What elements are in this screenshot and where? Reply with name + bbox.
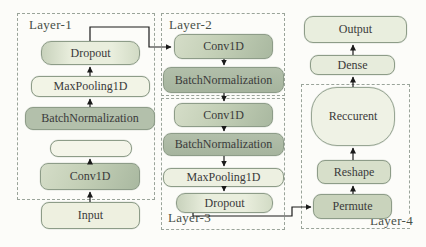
node-output: Output [304, 16, 407, 43]
node-maxpooling-layer1: MaxPooling1D [31, 76, 150, 97]
node-batchnorm-layer2: BatchNormalization [163, 67, 284, 93]
node-conv1d-layer2: Conv1D [174, 34, 273, 59]
node-dropout-layer1: Dropout [41, 41, 140, 65]
node-conv1d-layer3: Conv1D [174, 103, 273, 127]
node-reshape: Reshape [317, 160, 391, 184]
node-dense: Dense [310, 55, 395, 75]
node-batchnorm-layer1: BatchNormalization [25, 107, 155, 130]
node-batchnorm-layer3: BatchNormalization [163, 133, 284, 156]
node-dropout-layer3: Dropout [176, 193, 273, 213]
node-blank-layer1 [50, 140, 132, 157]
layer2-label: Layer-2 [169, 18, 212, 32]
layer1-label: Layer-1 [29, 18, 72, 32]
node-conv1d-layer1: Conv1D [40, 163, 140, 190]
node-permute: Permute [313, 194, 392, 219]
node-input: Input [41, 202, 140, 229]
node-recurrent: Reccurent [311, 87, 395, 146]
node-maxpooling-layer3: MaxPooling1D [163, 168, 284, 187]
architecture-diagram: Layer-1 Layer-2 Layer-3 Layer-4 Dropout … [0, 0, 426, 247]
layer3-label: Layer-3 [168, 211, 211, 225]
